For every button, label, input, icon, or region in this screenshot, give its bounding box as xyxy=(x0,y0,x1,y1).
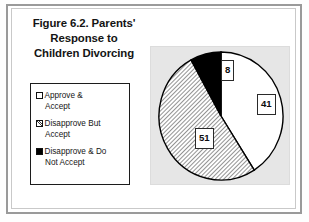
legend-item-disapprove-not-accept: Disapprove & Do Not Accept xyxy=(36,146,125,168)
legend-item-disapprove-but-accept-label-line1: Disapprove But xyxy=(45,119,101,128)
black-square-icon xyxy=(36,148,43,155)
legend-item-disapprove-but-accept: Disapprove But Accept xyxy=(36,118,125,140)
chart-legend: Approve & Accept Disapprove But Accept D… xyxy=(30,83,130,185)
hatched-square-icon xyxy=(36,120,43,127)
figure-title-line-3: Children Divorcing xyxy=(14,46,154,61)
figure-title: Figure 6.2. Parents' Response to Childre… xyxy=(14,16,154,61)
legend-item-disapprove-but-accept-label-line2: Accept xyxy=(45,129,125,140)
data-label-disapprove-but-accept: 51 xyxy=(195,128,214,149)
data-label-disapprove-not-accept: 8 xyxy=(221,60,234,81)
figure-title-line-2: Response to xyxy=(14,31,154,46)
legend-item-approve-label-line1: Approve & xyxy=(45,91,83,100)
chart-plot-area: 8 41 51 xyxy=(150,46,290,185)
legend-item-disapprove-not-accept-label-line1: Disapprove & Do xyxy=(45,147,107,156)
figure-title-line-1: Figure 6.2. Parents' xyxy=(14,16,154,31)
legend-item-approve: Approve & Accept xyxy=(36,90,125,112)
figure-page: Figure 6.2. Parents' Response to Childre… xyxy=(0,0,309,222)
white-square-icon xyxy=(36,92,43,99)
legend-item-approve-label-line2: Accept xyxy=(45,101,125,112)
data-label-approve: 41 xyxy=(257,94,276,115)
legend-item-disapprove-not-accept-label-line2: Not Accept xyxy=(45,157,125,168)
pie-chart: 8 41 51 xyxy=(157,50,285,182)
